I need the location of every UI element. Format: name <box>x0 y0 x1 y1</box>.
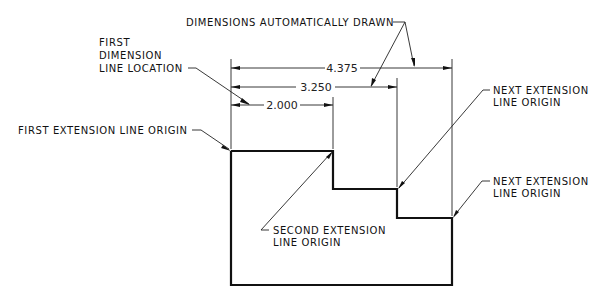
dimension-4375: 4.375 <box>231 62 452 75</box>
leader-next-ext-origin-a: NEXT EXTENSION LINE ORIGIN <box>398 85 589 189</box>
label-next-ext-a-1: NEXT EXTENSION <box>493 85 589 96</box>
label-next-ext-a-2: LINE ORIGIN <box>493 97 561 108</box>
label-second-ext-2: LINE ORIGIN <box>273 237 341 248</box>
dimension-value-4375: 4.375 <box>326 62 358 75</box>
dimension-2000: 2.000 <box>231 99 333 112</box>
dimension-drawing: 4.375 3.250 2.000 DIMENSIONS AUTOMATICAL… <box>0 0 602 300</box>
leader-first-dim-line: FIRST DIMENSION LINE LOCATION <box>99 37 250 105</box>
leader-next-ext-origin-b: NEXT EXTENSION LINE ORIGIN <box>453 176 589 218</box>
label-first-dim-2: DIMENSION <box>99 50 162 61</box>
label-first-dim-1: FIRST <box>99 37 130 48</box>
label-first-dim-3: LINE LOCATION <box>99 63 183 74</box>
dimension-value-3250: 3.250 <box>300 81 332 94</box>
leader-first-ext-origin: FIRST EXTENSION LINE ORIGIN <box>18 125 231 151</box>
dimension-value-2000: 2.000 <box>266 99 298 112</box>
label-next-ext-b-1: NEXT EXTENSION <box>493 176 589 187</box>
part-outline <box>231 151 452 285</box>
leader-auto-drawn: DIMENSIONS AUTOMATICALLY DRAWN <box>186 17 415 87</box>
label-auto-drawn: DIMENSIONS AUTOMATICALLY DRAWN <box>186 17 394 28</box>
label-first-ext-origin: FIRST EXTENSION LINE ORIGIN <box>18 125 188 136</box>
label-second-ext-1: SECOND EXTENSION <box>273 225 386 236</box>
leader-second-ext-origin: SECOND EXTENSION LINE ORIGIN <box>261 151 386 248</box>
label-next-ext-b-2: LINE ORIGIN <box>493 188 561 199</box>
